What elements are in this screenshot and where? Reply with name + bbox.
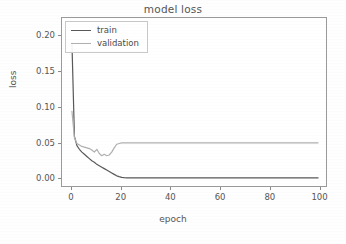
x-tick-mark: [220, 187, 221, 190]
y-tick-label: 0.15: [23, 66, 55, 76]
x-tick-label: 100: [305, 192, 335, 202]
x-tick-mark: [71, 187, 72, 190]
legend: train validation: [65, 21, 148, 53]
series-line-train: [72, 43, 318, 178]
y-tick-label: 0.05: [23, 138, 55, 148]
y-tick-label: 0.10: [23, 102, 55, 112]
legend-line-swatch-train: [71, 30, 91, 31]
matplotlib-figure: model loss loss epoch 0.000.050.100.150.…: [0, 0, 346, 244]
legend-label-validation: validation: [97, 39, 139, 48]
legend-line-swatch-validation: [71, 43, 91, 44]
x-axis-label: epoch: [0, 214, 346, 224]
chart-title: model loss: [0, 3, 346, 15]
legend-entry-validation: validation: [71, 39, 139, 48]
x-tick-mark: [320, 187, 321, 190]
x-tick-label: 0: [56, 192, 86, 202]
series-line-validation: [72, 111, 318, 155]
x-tick-label: 80: [255, 192, 285, 202]
x-tick-mark: [270, 187, 271, 190]
y-tick-label: 0.20: [23, 30, 55, 40]
y-axis-label: loss: [8, 71, 18, 88]
x-tick-label: 40: [155, 192, 185, 202]
legend-entry-train: train: [71, 26, 139, 35]
y-tick-label: 0.00: [23, 173, 55, 183]
legend-label-train: train: [97, 26, 117, 35]
x-tick-mark: [170, 187, 171, 190]
plot-area: train validation: [61, 17, 327, 187]
x-tick-label: 60: [205, 192, 235, 202]
x-tick-label: 20: [106, 192, 136, 202]
x-tick-mark: [121, 187, 122, 190]
